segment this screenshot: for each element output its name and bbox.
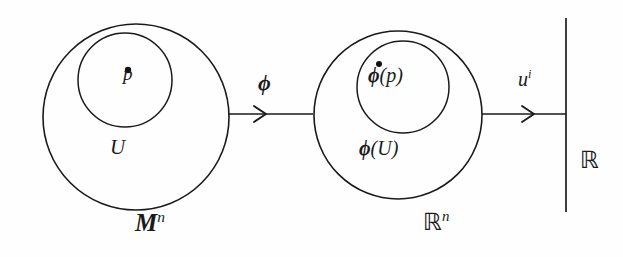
image-point-phi-glyph: ϕ: [368, 64, 380, 86]
u-arrow: [482, 106, 566, 122]
point-p-label: p: [123, 64, 133, 83]
coordinate-function-base: u: [518, 68, 528, 90]
image-set-phi-glyph: ϕ: [359, 137, 371, 159]
image-point-label: ϕ(p): [368, 65, 403, 85]
euclidean-space-base: ℝ: [423, 208, 442, 236]
euclidean-space-label: ℝn: [423, 209, 449, 234]
image-set-argument: (U): [371, 137, 399, 159]
image-point-argument: (p): [380, 64, 403, 86]
diagram-canvas: [0, 0, 623, 257]
manifold-M-label: Mn: [135, 209, 165, 235]
manifold-chart-diagram: p U Mn ϕ ϕ(p) ϕ(U) ℝn ui ℝ: [0, 0, 623, 257]
real-line-label: ℝ: [580, 148, 599, 172]
manifold-outer-circle: [43, 24, 229, 210]
image-set-label: ϕ(U): [359, 138, 398, 158]
coordinate-function-label: ui: [518, 68, 531, 89]
neighborhood-U-label: U: [110, 137, 125, 158]
coordinate-function-index: i: [528, 67, 531, 81]
manifold-M-base: M: [135, 209, 157, 236]
phi-U-circle: [357, 41, 449, 133]
phi-arrow: [228, 106, 313, 122]
chart-map-phi-label: ϕ: [258, 72, 271, 94]
manifold-M-exponent: n: [157, 208, 165, 225]
rn-outer-circle: [314, 31, 482, 199]
euclidean-space-exponent: n: [442, 208, 449, 224]
